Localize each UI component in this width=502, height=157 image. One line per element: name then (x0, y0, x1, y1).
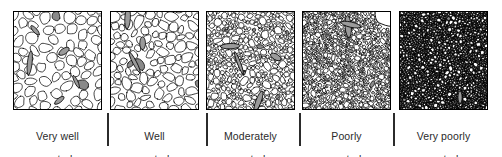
grain-texture-moderately-sorted (207, 12, 294, 109)
caption-well-sorted: Well sorted (110, 119, 199, 157)
caption-line-1: Very poorly (399, 131, 488, 143)
caption-line-2: sorted (399, 154, 488, 157)
separator-1 (107, 113, 109, 146)
caption-line-1: Poorly (302, 131, 391, 143)
caption-very-well-sorted: Very well sorted (13, 119, 102, 157)
panel-frame (302, 11, 391, 110)
panel-moderately-sorted[interactable] (206, 11, 295, 110)
panel-well-sorted[interactable] (110, 11, 199, 110)
caption-line-2: sorted (206, 154, 295, 157)
caption-very-poorly-sorted: Very poorly sorted (399, 119, 488, 157)
sorting-figure: Very well sorted Well sorted Moderately … (0, 0, 502, 157)
panel-frame (110, 11, 199, 110)
panel-frame (13, 11, 102, 110)
caption-line-1: Well (110, 131, 199, 143)
panel-frame (399, 11, 488, 110)
caption-moderately-sorted: Moderately sorted (206, 119, 295, 157)
grain-texture-very-well-sorted (14, 12, 101, 109)
separator-4 (393, 113, 395, 146)
caption-line-1: Very well (13, 131, 102, 143)
grain-texture-very-poorly-sorted (400, 12, 487, 109)
caption-line-2: sorted (110, 154, 199, 157)
panel-very-well-sorted[interactable] (13, 11, 102, 110)
panel-frame (206, 11, 295, 110)
caption-poorly-sorted: Poorly sorted (302, 119, 391, 157)
panel-poorly-sorted[interactable] (302, 11, 391, 110)
grain-texture-well-sorted (111, 12, 198, 109)
caption-line-2: sorted (302, 154, 391, 157)
separator-3 (299, 113, 301, 146)
caption-line-1: Moderately (206, 131, 295, 143)
caption-line-2: sorted (13, 154, 102, 157)
panel-very-poorly-sorted[interactable] (399, 11, 488, 110)
grain-texture-poorly-sorted (303, 12, 390, 109)
